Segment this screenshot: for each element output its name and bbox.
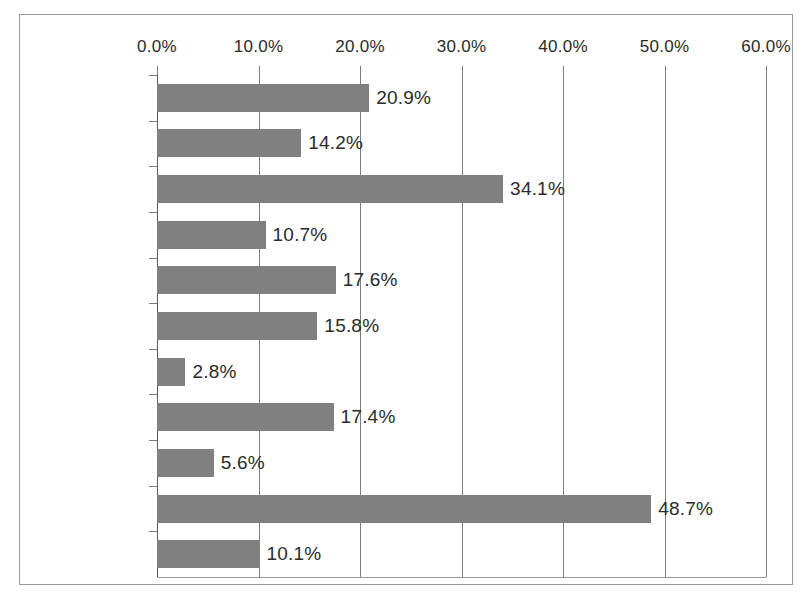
chart-row: 避難誘導20.9% <box>157 75 766 121</box>
bar-value-label: 5.6% <box>221 449 265 477</box>
chart-row: 避難所運営17.4% <box>157 394 766 440</box>
chart-row: 道路整備5.6% <box>157 440 766 486</box>
bar <box>157 129 301 157</box>
chart-row: 安否確認34.1% <box>157 166 766 212</box>
bar-value-label: 17.4% <box>341 403 396 431</box>
y-axis-tick-mark <box>149 212 157 213</box>
x-axis-tick-mark <box>665 66 666 75</box>
x-axis-tick-mark <box>462 66 463 75</box>
bar-value-label: 48.7% <box>658 495 713 523</box>
bar <box>157 540 260 568</box>
chart-page: 0.0%10.0%20.0%30.0%40.0%50.0%60.0%避難誘導20… <box>0 0 812 599</box>
bar-value-label: 2.8% <box>192 358 236 386</box>
y-axis-tick-mark <box>149 166 157 167</box>
chart-row: 物資配給15.8% <box>157 303 766 349</box>
x-axis-tick-mark <box>157 66 158 75</box>
bar <box>157 266 336 294</box>
y-axis-tick-mark <box>149 258 157 259</box>
chart-row: 捜索10.7% <box>157 212 766 258</box>
x-axis-tick-mark <box>360 66 361 75</box>
bar <box>157 312 317 340</box>
bar <box>157 358 185 386</box>
bar-value-label: 34.1% <box>510 175 565 203</box>
y-axis-tick-mark <box>149 75 157 76</box>
y-axis-tick-mark <box>149 121 157 122</box>
gridline <box>766 75 767 577</box>
bar-value-label: 10.1% <box>267 540 322 568</box>
bar <box>157 175 503 203</box>
x-axis-tick-mark <box>259 66 260 75</box>
figure-frame: 0.0%10.0%20.0%30.0%40.0%50.0%60.0%避難誘導20… <box>19 14 793 585</box>
y-axis-tick-mark <box>149 394 157 395</box>
bar-value-label: 10.7% <box>273 221 328 249</box>
bar <box>157 84 369 112</box>
chart-row: 地域防犯2.8% <box>157 349 766 395</box>
y-axis-tick-mark <box>149 440 157 441</box>
bar <box>157 449 214 477</box>
x-axis-tick-mark <box>563 66 564 75</box>
x-axis-tick-label: 50.0% <box>640 37 690 57</box>
bar <box>157 495 651 523</box>
x-axis-tick-mark <box>766 66 767 75</box>
y-axis-tick-mark <box>149 303 157 304</box>
y-axis-tick-mark <box>149 486 157 487</box>
bar-value-label: 14.2% <box>308 129 363 157</box>
x-axis-tick-label: 10.0% <box>234 37 284 57</box>
y-axis-tick-mark <box>149 349 157 350</box>
chart-row: その他10.1% <box>157 531 766 577</box>
x-axis-tick-label: 30.0% <box>437 37 487 57</box>
x-axis-tick-label: 20.0% <box>335 37 385 57</box>
x-axis-baseline <box>157 577 766 578</box>
x-axis-tick-label: 0.0% <box>137 37 177 57</box>
chart-row: はげまし48.7% <box>157 486 766 532</box>
bar <box>157 403 334 431</box>
chart-row: 物資調達17.6% <box>157 258 766 304</box>
bar-value-label: 15.8% <box>324 312 379 340</box>
bar <box>157 221 266 249</box>
plot-area: 0.0%10.0%20.0%30.0%40.0%50.0%60.0%避難誘導20… <box>157 75 766 577</box>
chart-row: 救出救助14.2% <box>157 121 766 167</box>
x-axis-tick-label: 40.0% <box>538 37 588 57</box>
bar-value-label: 20.9% <box>376 84 431 112</box>
y-axis-tick-mark <box>149 531 157 532</box>
bar-value-label: 17.6% <box>343 266 398 294</box>
x-axis-tick-label: 60.0% <box>741 37 791 57</box>
